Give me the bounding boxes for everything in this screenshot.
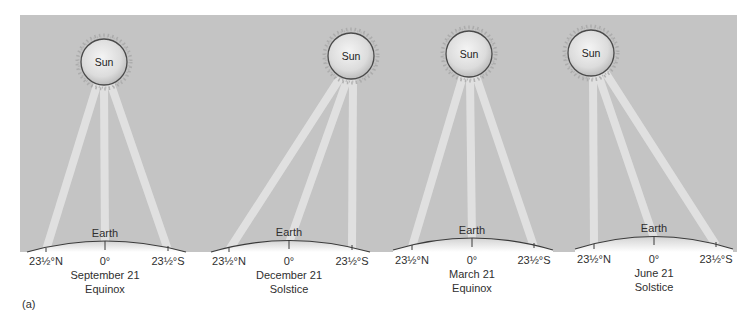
earth-label: Earth [92,227,118,239]
latitude-north-label: 23½°N [29,255,63,268]
latitude-south-label: 23½°S [335,255,368,268]
equator-label: 0° [100,255,111,268]
event-label: Equinox [85,283,125,296]
earth-label: Earth [641,222,667,234]
date-label: March 21 [449,268,495,281]
latitude-north-label: 23½°N [577,253,611,266]
equator-label: 0° [467,254,478,267]
date-label: September 21 [70,269,139,282]
event-label: Solstice [270,283,309,296]
sun-beams [229,78,353,250]
event-label: Solstice [635,281,674,294]
latitude-north-label: 23½°N [395,254,429,267]
sun-beams [46,82,168,250]
latitude-south-label: 23½°S [699,253,732,266]
event-label: Equinox [452,282,492,295]
sun-label: Sun [342,50,361,62]
sun-beams [412,76,534,247]
date-label: June 21 [634,267,673,280]
panel-june-solstice [564,26,733,252]
latitude-south-label: 23½°S [151,255,184,268]
panel-march-equinox [393,27,553,252]
latitude-south-label: 23½°S [517,254,550,267]
equator-label: 0° [649,253,660,266]
figure-caption: (a) [22,298,35,310]
equator-label: 0° [284,255,295,268]
sun-label: Sun [95,56,114,68]
date-label: December 21 [256,269,322,282]
panel-december-solstice [211,29,378,252]
sun-label: Sun [460,48,479,60]
sun-label: Sun [582,47,601,59]
sun-beams [593,72,716,246]
earth-label: Earth [459,224,485,236]
earth-label: Earth [276,226,302,238]
latitude-north-label: 23½°N [212,255,246,268]
